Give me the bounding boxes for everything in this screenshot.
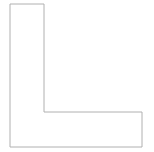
l-shape-figure xyxy=(0,0,154,152)
l-shaped-polygon xyxy=(10,4,142,147)
drawing-canvas xyxy=(0,0,154,152)
